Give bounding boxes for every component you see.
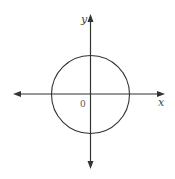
y-axis-bottom-arrow-icon: [88, 161, 94, 169]
y-axis-label: y: [80, 13, 88, 26]
y-axis-top-arrow-icon: [88, 14, 94, 22]
y-axis: [88, 14, 94, 169]
x-axis: [13, 91, 165, 97]
coordinate-diagram: y x 0: [0, 0, 175, 179]
origin-label: 0: [80, 99, 86, 109]
x-axis-label: x: [158, 96, 165, 109]
x-axis-left-arrow-icon: [13, 91, 21, 97]
